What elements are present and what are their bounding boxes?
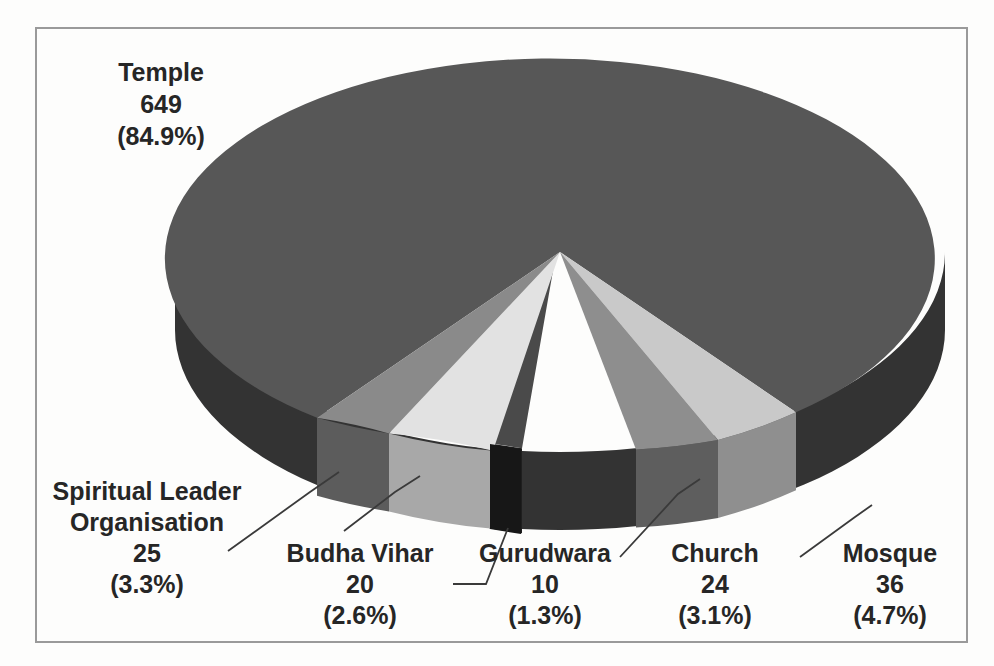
gurudwara-label-value: 10: [531, 570, 559, 598]
church-label-name: Church: [671, 539, 759, 567]
church-label-value: 24: [701, 570, 729, 598]
spiritual-label-name1: Spiritual Leader: [53, 477, 242, 505]
budha-label-name: Budha Vihar: [287, 539, 434, 567]
spiritual-label-value: 25: [133, 539, 161, 567]
temple-label-value: 649: [140, 90, 182, 118]
church-label-percent: (3.1%): [678, 601, 752, 629]
pie-side-spiritual: [317, 418, 389, 512]
spiritual-label-name2: Organisation: [70, 508, 224, 536]
mosque-label-name: Mosque: [843, 539, 938, 567]
gurudwara-label-percent: (1.3%): [508, 601, 582, 629]
pie-chart-canvas: Temple 649 (84.9%) Spiritual Leader Orga…: [0, 0, 994, 666]
mosque-label-value: 36: [876, 570, 904, 598]
budha-label-percent: (2.6%): [323, 601, 397, 629]
pie-side-church: [636, 440, 718, 528]
budha-label-value: 20: [346, 570, 374, 598]
pie-explode-gurudwara-face: [490, 444, 521, 534]
pie-chart-figure: Temple 649 (84.9%) Spiritual Leader Orga…: [0, 0, 994, 666]
temple-label-name: Temple: [118, 58, 204, 86]
temple-label-percent: (84.9%): [117, 122, 205, 150]
gurudwara-label-name: Gurudwara: [479, 539, 612, 567]
spiritual-label-percent: (3.3%): [110, 570, 184, 598]
mosque-label-percent: (4.7%): [853, 601, 927, 629]
